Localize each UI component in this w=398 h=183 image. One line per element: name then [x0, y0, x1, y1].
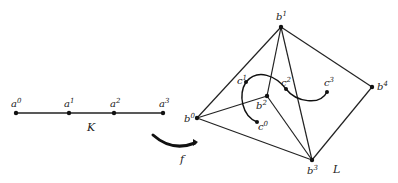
label-a3: a3 — [159, 97, 170, 109]
vertex-b0 — [195, 116, 199, 120]
vertex-a2 — [112, 111, 116, 115]
vertex-a0 — [14, 111, 18, 115]
complex-l — [197, 27, 372, 160]
label-k: K — [86, 121, 96, 134]
map-f: f — [153, 135, 198, 166]
vertex-b4 — [370, 85, 374, 89]
complex-k: a0 a1 a2 a3 K — [11, 97, 170, 134]
vertex-b1 — [279, 25, 283, 29]
label-c2: c2 — [281, 76, 292, 88]
label-b1: b1 — [276, 10, 287, 22]
label-a2: a2 — [110, 97, 121, 109]
label-b3: b3 — [307, 164, 318, 176]
arrow-head-icon — [193, 139, 198, 146]
vertex-a1 — [67, 111, 71, 115]
vertex-b3 — [310, 158, 314, 162]
vertex-a3 — [161, 111, 165, 115]
label-b4: b4 — [377, 80, 388, 92]
map-arrow — [153, 135, 195, 146]
l-vertices — [195, 25, 374, 162]
vertex-b2 — [265, 94, 269, 98]
label-b2: b2 — [256, 99, 267, 111]
label-b0: b0 — [184, 112, 195, 124]
point-c3 — [325, 90, 329, 94]
label-c0: c0 — [258, 120, 269, 132]
label-c3: c3 — [324, 76, 335, 88]
label-f: f — [179, 153, 186, 166]
label-a1: a1 — [64, 97, 74, 109]
simplicial-map-diagram: a0 a1 a2 a3 K f b0 b1 b2 b3 — [0, 0, 398, 183]
label-a0: a0 — [11, 97, 22, 109]
label-l: L — [332, 163, 340, 176]
